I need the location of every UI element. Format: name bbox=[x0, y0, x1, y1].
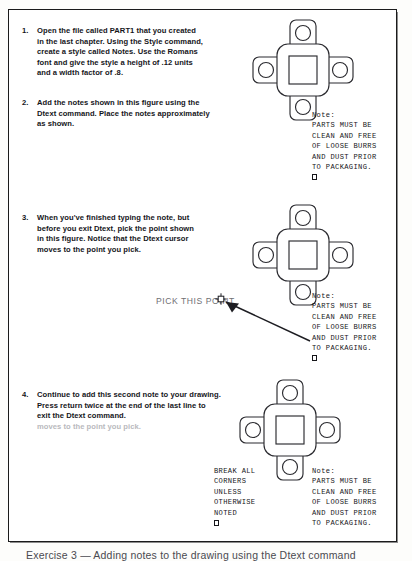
step-4-line-3: exit the Dtext command. bbox=[37, 411, 221, 422]
parts-note-2: Note: PARTS MUST BE CLEAN AND FREE OF LO… bbox=[312, 291, 377, 365]
step-3-line-4: moves to the point you pick. bbox=[37, 245, 194, 256]
instruction-step-4: 4. Continue to add this second note to y… bbox=[22, 390, 237, 422]
bottom-caption: Exercise 3 — Adding notes to the drawing… bbox=[26, 550, 376, 561]
break-note-line-5: NOTED bbox=[214, 508, 255, 518]
figure-1-part-drawing bbox=[251, 18, 355, 122]
step-3-line-3: in this figure. Notice that the Dtext cu… bbox=[37, 234, 194, 245]
parts-note-2-line-6: TO PACKAGING. bbox=[312, 343, 377, 353]
instruction-step-2: 2. Add the notes shown in this figure us… bbox=[22, 98, 237, 130]
break-corners-note: BREAK ALL CORNERS UNLESS OTHERWISE NOTED bbox=[214, 466, 255, 529]
parts-note-1-line-3: CLEAN AND FREE bbox=[312, 131, 377, 141]
parts-note-2-line-3: CLEAN AND FREE bbox=[312, 312, 377, 322]
pick-point-crosshair-icon bbox=[215, 291, 227, 309]
step-4-line-2: Press return twice at the end of the las… bbox=[37, 401, 221, 412]
parts-note-1: Note: PARTS MUST BE CLEAN AND FREE OF LO… bbox=[312, 110, 377, 184]
step-4-line-1: Continue to add this second note to your… bbox=[37, 390, 221, 401]
step-4-ghost-line: moves to the point you pick. bbox=[37, 422, 141, 433]
parts-note-1-line-5: AND DUST PRIOR bbox=[312, 152, 377, 162]
step-4-number: 4. bbox=[22, 390, 37, 401]
parts-note-3-line-5: AND DUST PRIOR bbox=[312, 508, 377, 518]
parts-note-2-line-1: Note: bbox=[312, 291, 377, 301]
parts-note-1-line-6: TO PACKAGING. bbox=[312, 162, 377, 172]
step-1-line-1: Open the file called PART1 that you crea… bbox=[37, 26, 203, 37]
parts-note-3-line-3: CLEAN AND FREE bbox=[312, 487, 377, 497]
step-3-text: When you've finished typing the note, bu… bbox=[37, 213, 194, 255]
parts-note-3-line-6: TO PACKAGING. bbox=[312, 518, 377, 528]
parts-note-2-cursor bbox=[312, 353, 377, 364]
parts-note-3-line-2: PARTS MUST BE bbox=[312, 476, 377, 486]
parts-note-1-cursor bbox=[312, 172, 377, 183]
instruction-step-3: 3. When you've finished typing the note,… bbox=[22, 213, 237, 255]
parts-note-2-line-4: OF LOOSE BURRS bbox=[312, 322, 377, 332]
break-note-line-2: CORNERS bbox=[214, 476, 255, 486]
step-1-line-5: and a width factor of .8. bbox=[37, 68, 203, 79]
step-3-line-2: before you exit Dtext, pick the point sh… bbox=[37, 224, 194, 235]
parts-note-1-line-2: PARTS MUST BE bbox=[312, 120, 377, 130]
step-2-line-3: as shown. bbox=[37, 119, 210, 130]
step-1-text: Open the file called PART1 that you crea… bbox=[37, 26, 203, 79]
break-note-line-4: OTHERWISE bbox=[214, 497, 255, 507]
step-2-text: Add the notes shown in this figure using… bbox=[37, 98, 210, 130]
parts-note-1-line-1: Note: bbox=[312, 110, 377, 120]
parts-note-2-line-5: AND DUST PRIOR bbox=[312, 333, 377, 343]
break-note-line-3: UNLESS bbox=[214, 487, 255, 497]
step-1-number: 1. bbox=[22, 26, 37, 37]
step-3-number: 3. bbox=[22, 213, 37, 224]
step-1-line-2: in the last chapter. Using the Style com… bbox=[37, 37, 203, 48]
instruction-step-1: 1. Open the file called PART1 that you c… bbox=[22, 26, 237, 79]
step-2-line-2: Dtext command. Place the notes approxima… bbox=[37, 109, 210, 120]
step-1-line-4: font and give the style a height of .12 … bbox=[37, 58, 203, 69]
step-2-line-1: Add the notes shown in this figure using… bbox=[37, 98, 210, 109]
scanned-page: 1. Open the file called PART1 that you c… bbox=[0, 0, 412, 561]
parts-note-3-line-1: Note: bbox=[312, 466, 377, 476]
parts-note-3-line-4: OF LOOSE BURRS bbox=[312, 497, 377, 507]
parts-note-1-line-4: OF LOOSE BURRS bbox=[312, 141, 377, 151]
step-2-number: 2. bbox=[22, 98, 37, 109]
step-1-line-3: create a style called Notes. Use the Rom… bbox=[37, 47, 203, 58]
parts-note-2-line-2: PARTS MUST BE bbox=[312, 301, 377, 311]
step-4-text: Continue to add this second note to your… bbox=[37, 390, 221, 422]
parts-note-3: Note: PARTS MUST BE CLEAN AND FREE OF LO… bbox=[312, 466, 377, 528]
step-3-line-1: When you've finished typing the note, bu… bbox=[37, 213, 194, 224]
break-note-line-1: BREAK ALL bbox=[214, 466, 255, 476]
break-note-cursor bbox=[214, 518, 255, 529]
